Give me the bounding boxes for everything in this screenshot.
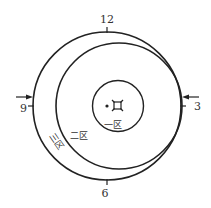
label-12: 12 — [100, 13, 114, 26]
zone-diagram-svg: 12 3 6 9 一区 二区 三区 — [0, 0, 211, 208]
label-6: 6 — [102, 187, 109, 200]
center-symbol-icon — [112, 100, 123, 111]
middle-circle — [56, 43, 182, 169]
zone-diagram: 12 3 6 9 一区 二区 三区 — [0, 0, 211, 208]
center-dot — [105, 104, 108, 107]
label-3: 3 — [194, 100, 201, 113]
label-9: 9 — [20, 102, 27, 115]
zone2-label: 二区 — [70, 131, 88, 141]
right-arrow-icon — [182, 95, 199, 100]
left-arrow-icon — [16, 95, 33, 100]
zone1-label: 一区 — [104, 120, 122, 130]
